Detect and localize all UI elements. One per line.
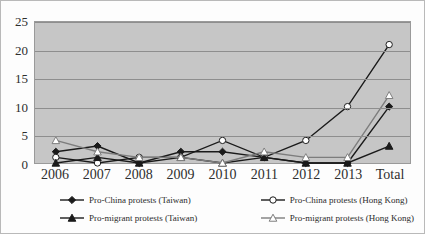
x-axis-tick-label: 2013 [334,168,362,182]
x-axis-tick-label: 2009 [167,168,195,182]
plot-area [34,21,411,164]
y-axis-tick-label: 10 [15,100,28,113]
gridline [35,22,410,23]
y-axis: 0510152025 [1,1,32,184]
gridline [35,51,410,52]
data-point-marker [386,41,392,47]
x-axis-tick-label: 2007 [83,168,111,182]
legend-item-label: Pro-China protests (Taiwan) [89,196,191,205]
x-axis-tick-label: 2011 [251,168,278,182]
y-axis-tick-label: 5 [22,129,29,142]
legend-item-label: Pro-migrant protests (Taiwan) [89,214,197,223]
data-point-marker [219,137,225,143]
x-axis-tick-label: 2008 [125,168,153,182]
data-point-marker [68,196,75,203]
gridline [35,108,410,109]
series-1 [53,41,393,166]
y-axis-tick-label: 20 [15,43,28,56]
legend-item-0[interactable]: Pro-China protests (Taiwan) [11,194,212,206]
legend-marker-icon [59,194,85,206]
series-line [56,45,389,163]
data-point-marker [385,92,393,99]
data-point-marker [52,137,60,144]
y-axis-tick-label: 15 [15,72,28,85]
chart-legend: Pro-China protests (Taiwan)Pro-China pro… [11,191,414,227]
data-point-marker [270,197,276,203]
legend-marker-icon [59,212,85,224]
legend-marker-icon [260,212,286,224]
x-axis-tick-label: Total [376,168,405,182]
series-lines-layer [35,22,410,163]
x-axis: 20062007200820092010201120122013Total [34,168,411,190]
chart-container: 0510152025 20062007200820092010201120122… [0,0,425,234]
y-axis-tick-label: 25 [15,15,28,28]
data-point-marker [219,148,226,155]
data-point-marker [385,142,393,149]
legend-item-label: Pro-migrant protests (Hong Kong) [290,214,414,223]
legend-item-1[interactable]: Pro-China protests (Hong Kong) [212,194,414,206]
legend-marker-icon [260,194,286,206]
y-axis-tick-label: 0 [22,158,29,171]
x-axis-tick-label: 2006 [41,168,69,182]
gridline [35,136,410,137]
data-point-marker [303,137,309,143]
legend-item-label: Pro-China protests (Hong Kong) [290,196,408,205]
legend-item-2[interactable]: Pro-migrant protests (Taiwan) [11,212,212,224]
x-axis-tick-label: 2012 [292,168,320,182]
gridline [35,79,410,80]
x-axis-tick-label: 2010 [209,168,237,182]
legend-item-3[interactable]: Pro-migrant protests (Hong Kong) [212,212,414,224]
